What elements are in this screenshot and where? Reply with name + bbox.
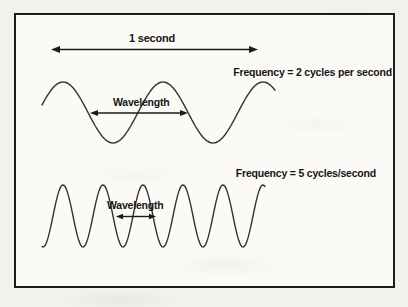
- frequency-label-5hz: Frequency = 5 cycles/second: [236, 168, 376, 179]
- one-second-span-arrow-right-head: [249, 46, 258, 53]
- wavelength-label-2hz: Wavelength: [113, 97, 170, 108]
- frequency-label-2hz: Frequency = 2 cycles per second: [233, 67, 392, 78]
- waveform-canvas: [0, 0, 408, 307]
- one-second-span-arrow-left-head: [51, 46, 60, 53]
- wavelength-arrow-2hz-left-head: [90, 110, 98, 116]
- time-span-label: 1 second: [129, 33, 175, 44]
- wavelength-arrow-5hz-left-head: [116, 214, 123, 220]
- scanned-figure-page: { "diagram": { "title_implicit": "Freque…: [0, 0, 408, 307]
- wavelength-label-5hz: Wavelength: [107, 200, 164, 211]
